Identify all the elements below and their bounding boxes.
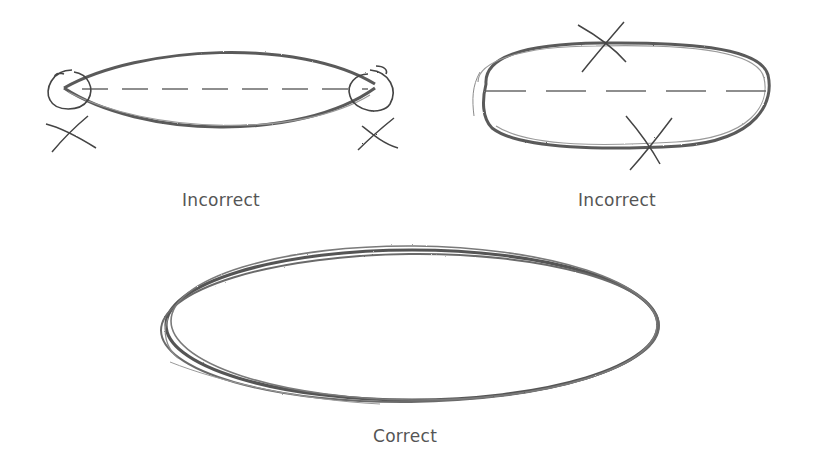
lens-outline-top [64,52,375,88]
label-smooth-ellipse: Correct [373,426,437,446]
lens-outline-bottom-extra [68,92,370,125]
example-smooth-ellipse [160,244,660,405]
label-pointed-ends: Incorrect [182,190,260,210]
sketch-canvas [0,0,816,464]
x-mark-top [578,22,626,72]
example-flattened-sides [473,22,769,170]
lens-outline-bottom [64,88,375,127]
label-flattened-sides: Incorrect [578,190,656,210]
example-pointed-ends [46,52,398,152]
x-mark-left [46,116,96,152]
ellipse-drawing-diagram: Incorrect Incorrect Correct [0,0,816,464]
flat-ellipse-outline-extra [478,46,765,145]
x-mark-right [358,118,398,150]
